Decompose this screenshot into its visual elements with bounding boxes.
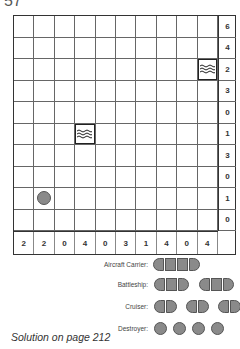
grid-cell[interactable] [55,59,75,81]
grid-cell[interactable] [136,167,156,189]
grid-cell[interactable] [96,188,116,210]
grid-cell[interactable] [55,81,75,103]
grid-cell[interactable] [75,145,95,167]
grid-cell[interactable] [198,102,218,124]
grid-cell[interactable] [34,16,54,38]
grid-cell[interactable] [157,38,177,60]
grid-cell[interactable] [75,81,95,103]
grid-cell[interactable] [136,210,156,232]
grid-cell[interactable] [34,124,54,146]
grid-cell[interactable] [75,188,95,210]
grid-cell[interactable] [116,210,136,232]
grid-cell[interactable] [136,81,156,103]
grid-cell[interactable] [75,210,95,232]
grid-cell[interactable] [116,81,136,103]
grid-cell[interactable] [198,188,218,210]
grid-cell[interactable] [136,38,156,60]
grid-cell[interactable] [177,145,197,167]
grid-cell[interactable] [75,167,95,189]
grid-cell[interactable] [34,102,54,124]
grid-cell[interactable] [116,16,136,38]
grid-cell[interactable] [177,124,197,146]
grid-cell[interactable] [55,38,75,60]
grid-cell[interactable] [177,102,197,124]
grid-cell[interactable] [34,145,54,167]
grid-cell[interactable] [75,59,95,81]
grid-cell[interactable] [177,167,197,189]
grid-cell[interactable] [136,188,156,210]
grid-cell[interactable] [136,59,156,81]
grid-cell[interactable] [96,102,116,124]
grid-cell[interactable] [34,210,54,232]
grid-cell[interactable] [177,81,197,103]
grid-cell[interactable] [34,81,54,103]
grid-cell[interactable] [177,38,197,60]
grid-cell[interactable] [34,188,54,210]
grid-cell[interactable] [157,59,177,81]
grid-cell[interactable] [198,38,218,60]
grid-cell[interactable] [75,124,95,146]
grid-cell[interactable] [177,59,197,81]
grid-cell[interactable] [96,38,116,60]
grid-cell[interactable] [96,124,116,146]
grid-cell[interactable] [198,59,218,81]
grid-cell[interactable] [116,59,136,81]
grid-cell[interactable] [75,38,95,60]
grid-cell[interactable] [116,145,136,167]
grid-cell[interactable] [14,124,34,146]
grid-cell[interactable] [34,167,54,189]
grid-cell[interactable] [116,124,136,146]
grid-cell[interactable] [177,188,197,210]
grid-cell[interactable] [14,59,34,81]
grid-cell[interactable] [177,16,197,38]
grid-cell[interactable] [157,81,177,103]
grid-cell[interactable] [136,124,156,146]
grid-cell[interactable] [14,145,34,167]
grid-cell[interactable] [14,210,34,232]
grid-cell[interactable] [116,102,136,124]
grid-cell[interactable] [55,16,75,38]
grid-cell[interactable] [157,167,177,189]
grid-cell[interactable] [116,38,136,60]
grid-cell[interactable] [34,38,54,60]
grid-cell[interactable] [14,188,34,210]
grid-cell[interactable] [116,188,136,210]
grid-cell[interactable] [116,167,136,189]
grid-cell[interactable] [157,16,177,38]
grid-cell[interactable] [198,145,218,167]
grid-cell[interactable] [55,210,75,232]
grid-cell[interactable] [136,145,156,167]
grid-cell[interactable] [96,81,116,103]
grid-cell[interactable] [157,188,177,210]
grid-cell[interactable] [157,102,177,124]
grid-cell[interactable] [55,145,75,167]
grid-cell[interactable] [55,124,75,146]
grid-cell[interactable] [198,167,218,189]
grid-cell[interactable] [96,167,116,189]
grid-cell[interactable] [198,81,218,103]
grid-cell[interactable] [34,59,54,81]
grid-cell[interactable] [96,145,116,167]
grid-cell[interactable] [55,167,75,189]
grid-cell[interactable] [55,102,75,124]
grid-cell[interactable] [96,59,116,81]
grid-cell[interactable] [157,210,177,232]
grid-cell[interactable] [157,145,177,167]
grid-cell[interactable] [177,210,197,232]
grid-cell[interactable] [198,124,218,146]
grid-cell[interactable] [136,102,156,124]
grid-cell[interactable] [14,81,34,103]
grid-cell[interactable] [14,167,34,189]
grid-cell[interactable] [198,210,218,232]
grid-cell[interactable] [75,16,95,38]
grid-cell[interactable] [14,102,34,124]
grid-cell[interactable] [198,16,218,38]
grid-cell[interactable] [14,16,34,38]
grid-cell[interactable] [96,16,116,38]
grid-cell[interactable] [96,210,116,232]
grid-cell[interactable] [55,188,75,210]
grid-cell[interactable] [75,102,95,124]
grid-cell[interactable] [14,38,34,60]
grid-cell[interactable] [136,16,156,38]
grid-cell[interactable] [157,124,177,146]
